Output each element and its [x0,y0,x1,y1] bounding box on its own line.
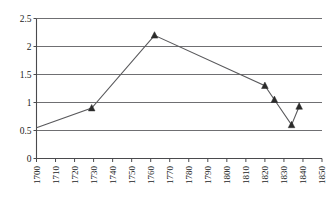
y-tick-label: 2.5 [20,14,32,24]
x-tick-label: 1740 [108,166,118,185]
x-tick-label: 1840 [298,166,308,185]
x-tick-label: 1830 [279,166,289,185]
x-tick-label: 1730 [89,166,99,185]
x-tick-label: 1790 [203,166,213,185]
y-tick-label: 0.5 [20,126,32,136]
x-tick-label: 1750 [127,166,137,185]
x-tick-label: 1720 [70,166,80,185]
chart-canvas: 00.511.522.5 170017101720173017401750176… [0,0,336,203]
x-tick-label: 1710 [51,166,61,185]
y-tick-label: 1 [27,98,32,108]
x-tick-label: 1850 [317,166,327,185]
x-tick-label: 1770 [165,166,175,185]
x-tick-label: 1760 [146,166,156,185]
x-tick-label: 1700 [32,166,42,185]
x-tick-label: 1820 [260,166,270,185]
line-chart: 00.511.522.5 170017101720173017401750176… [0,0,336,203]
y-tick-label: 0 [27,154,32,164]
y-tick-label: 1.5 [20,70,32,80]
x-tick-label: 1810 [241,166,251,185]
x-tick-label: 1800 [222,166,232,185]
x-tick-label: 1780 [184,166,194,185]
y-tick-label: 2 [27,42,32,52]
